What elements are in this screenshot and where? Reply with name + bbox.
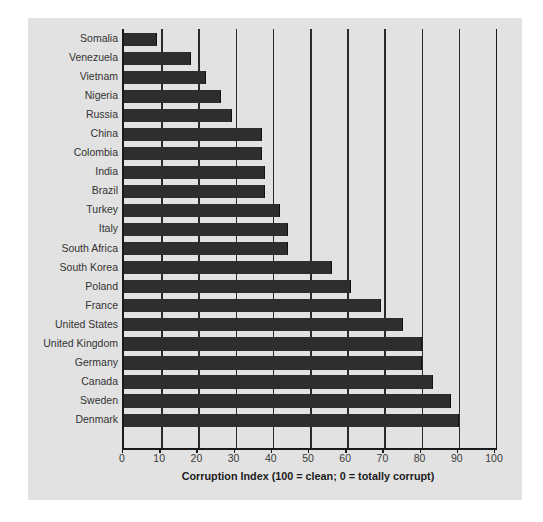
- x-tick-label-60: 60: [339, 452, 351, 464]
- bar-row: South Korea: [124, 259, 496, 278]
- y-axis-label: Venezuela: [69, 50, 118, 64]
- bar: [124, 318, 403, 331]
- y-axis-label: Italy: [99, 221, 118, 235]
- y-axis-label: Canada: [81, 374, 118, 388]
- y-axis-label: South Korea: [60, 260, 118, 274]
- bar: [124, 242, 288, 255]
- x-tick-label-0: 0: [119, 452, 125, 464]
- y-axis-label: South Africa: [61, 241, 118, 255]
- bar: [124, 128, 262, 141]
- bar-row: Sweden: [124, 392, 496, 411]
- bar-row: United States: [124, 316, 496, 335]
- y-axis-label: Nigeria: [85, 88, 118, 102]
- y-axis-label: Poland: [85, 279, 118, 293]
- x-tick-label-40: 40: [265, 452, 277, 464]
- bar: [124, 223, 288, 236]
- x-tick-label-90: 90: [451, 452, 463, 464]
- x-tick-label-20: 20: [191, 452, 203, 464]
- bar-row: United Kingdom: [124, 335, 496, 354]
- x-tick-label-100: 100: [485, 452, 503, 464]
- bar: [124, 299, 381, 312]
- bar: [124, 109, 232, 122]
- bar: [124, 356, 422, 369]
- y-axis-label: Denmark: [75, 412, 118, 426]
- y-axis-label: Somalia: [80, 31, 118, 45]
- y-axis-label: Germany: [75, 355, 118, 369]
- bar: [124, 52, 191, 65]
- x-tick-mark-40: [271, 448, 272, 453]
- x-tick-label-70: 70: [377, 452, 389, 464]
- corruption-index-bar-chart: SomaliaVenezuelaVietnamNigeriaRussiaChin…: [0, 0, 543, 522]
- y-axis-label: United States: [55, 317, 118, 331]
- bar-row: Poland: [124, 278, 496, 297]
- x-tick-mark-20: [196, 448, 197, 453]
- bar-row: Italy: [124, 220, 496, 239]
- bar: [124, 166, 265, 179]
- x-tick-mark-30: [234, 448, 235, 453]
- bar: [124, 71, 206, 84]
- bar-row: Brazil: [124, 182, 496, 201]
- bar: [124, 33, 157, 46]
- bar: [124, 394, 451, 407]
- x-tick-mark-50: [308, 448, 309, 453]
- x-tick-mark-60: [345, 448, 346, 453]
- bar: [124, 204, 280, 217]
- bar: [124, 185, 265, 198]
- bar: [124, 375, 433, 388]
- y-axis-label: China: [91, 126, 118, 140]
- bar-row: Vietnam: [124, 68, 496, 87]
- bar: [124, 414, 459, 427]
- y-axis-label: Vietnam: [80, 69, 118, 83]
- y-axis-label: India: [95, 164, 118, 178]
- bar-row: Colombia: [124, 144, 496, 163]
- bar-row: Canada: [124, 373, 496, 392]
- y-axis-label: Sweden: [80, 393, 118, 407]
- x-tick-mark-80: [420, 448, 421, 453]
- y-axis-label: Turkey: [86, 202, 118, 216]
- bar-row: China: [124, 125, 496, 144]
- x-tick-label-30: 30: [228, 452, 240, 464]
- bar-row: South Africa: [124, 240, 496, 259]
- bar-row: Russia: [124, 106, 496, 125]
- x-tick-mark-0: [122, 448, 123, 453]
- bar: [124, 261, 332, 274]
- x-tick-label-10: 10: [153, 452, 165, 464]
- bar-row: India: [124, 163, 496, 182]
- plot-area: SomaliaVenezuelaVietnamNigeriaRussiaChin…: [122, 29, 497, 450]
- x-axis-title: Corruption Index (100 = clean; 0 = total…: [122, 470, 494, 482]
- x-tick-label-80: 80: [414, 452, 426, 464]
- bar-row: Denmark: [124, 411, 496, 430]
- bar: [124, 337, 422, 350]
- x-tick-label-50: 50: [302, 452, 314, 464]
- bar-row: France: [124, 297, 496, 316]
- bar-row: Nigeria: [124, 87, 496, 106]
- y-axis-label: France: [85, 298, 118, 312]
- x-tick-mark-70: [382, 448, 383, 453]
- y-axis-label: Brazil: [92, 183, 118, 197]
- bar: [124, 147, 262, 160]
- bar: [124, 280, 351, 293]
- y-axis-label: United Kingdom: [43, 336, 118, 350]
- x-tick-mark-100: [494, 448, 495, 453]
- x-tick-mark-90: [457, 448, 458, 453]
- y-axis-label: Russia: [86, 107, 118, 121]
- bar-row: Germany: [124, 354, 496, 373]
- y-axis-label: Colombia: [74, 145, 118, 159]
- bar: [124, 90, 221, 103]
- x-tick-mark-10: [159, 448, 160, 453]
- bars-group: SomaliaVenezuelaVietnamNigeriaRussiaChin…: [124, 29, 496, 448]
- bar-row: Turkey: [124, 201, 496, 220]
- bar-row: Somalia: [124, 30, 496, 49]
- bar-row: Venezuela: [124, 49, 496, 68]
